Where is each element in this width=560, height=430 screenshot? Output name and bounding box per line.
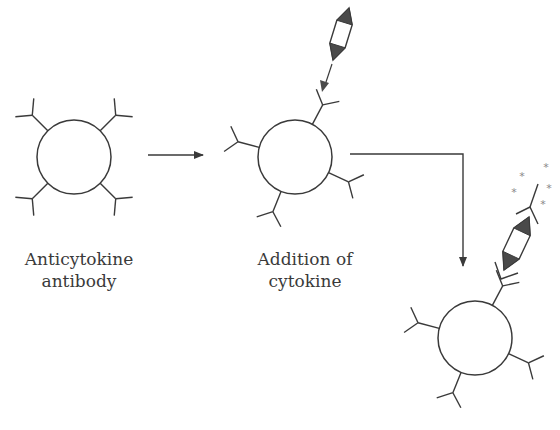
antibody-arm <box>528 363 532 379</box>
antibody-arm <box>15 197 32 198</box>
antibody-icon <box>100 183 132 215</box>
antibody-icon <box>329 173 364 199</box>
fluorescent-mark: * <box>519 170 525 183</box>
antibody-arm <box>348 182 352 198</box>
antibody-stem <box>509 354 529 363</box>
antibody-icon <box>15 98 47 130</box>
antibody-arm <box>323 101 340 105</box>
antibody-icon <box>509 354 544 380</box>
antibody-arm <box>503 282 520 286</box>
antibody-stem <box>238 142 259 148</box>
antibody-arm <box>116 197 133 198</box>
bead-step-2 <box>224 89 364 227</box>
antibody-arm <box>453 393 461 408</box>
label-anticytokine-antibody: Anticytokine antibody <box>14 248 144 292</box>
binding-arrowhead <box>320 80 329 92</box>
antibody-icon <box>100 98 132 130</box>
antibody-stem <box>32 115 48 131</box>
antibody-arm <box>114 98 115 115</box>
antibody-stem <box>329 173 349 182</box>
label-line: cytokine <box>240 270 370 292</box>
bead-step-3 <box>404 270 544 408</box>
bead-circle <box>438 301 512 375</box>
antibody-stem <box>32 183 48 199</box>
cytokine-icon <box>503 217 530 270</box>
fluorescent-mark: * <box>546 182 552 195</box>
antibody-arm <box>231 126 238 141</box>
antibody-icon <box>492 270 519 305</box>
detection-antibody-stem <box>530 184 538 207</box>
antibody-icon <box>224 126 259 151</box>
cytokine-molecule <box>320 8 352 92</box>
antibody-stem <box>453 372 461 392</box>
antibody-stem <box>273 191 281 211</box>
antibody-icon <box>15 183 47 215</box>
antibody-arm <box>114 199 115 216</box>
antibody-arm <box>404 323 418 333</box>
antibody-arm <box>437 393 453 398</box>
antibody-arm <box>116 115 133 116</box>
antibody-stem <box>492 286 502 305</box>
antibody-arm <box>348 175 363 182</box>
label-addition-of-cytokine: Addition of cytokine <box>240 248 370 292</box>
label-line: Addition of <box>240 248 370 270</box>
label-line: antibody <box>14 270 144 292</box>
antibody-arm <box>257 212 273 217</box>
cytokine-icon <box>330 8 352 60</box>
antibody-arm <box>224 142 238 152</box>
antibody-arm <box>528 356 543 363</box>
fluorescent-mark: * <box>543 161 549 174</box>
antibody-arm <box>32 98 33 115</box>
antibody-stem <box>312 105 322 124</box>
antibody-arm <box>316 89 322 105</box>
antibody-arm <box>411 307 418 322</box>
antibody-stem <box>418 323 439 329</box>
antibody-arm <box>15 115 32 116</box>
antibody-icon <box>257 191 281 226</box>
antibody-arm <box>273 212 281 227</box>
bead-step-1 <box>15 98 132 215</box>
antibody-stem <box>100 115 116 131</box>
antibody-icon <box>437 372 461 407</box>
bead-circle <box>37 120 111 194</box>
antibody-icon <box>404 307 439 332</box>
antibody-arm <box>32 199 33 216</box>
bead-circle <box>258 120 332 194</box>
fluorescent-mark: * <box>540 198 546 211</box>
antibody-stem <box>100 183 116 199</box>
antibody-icon <box>312 89 339 124</box>
fluorescent-mark: * <box>511 186 517 199</box>
diagram-canvas: ***** <box>0 0 560 430</box>
label-line: Anticytokine <box>14 248 144 270</box>
